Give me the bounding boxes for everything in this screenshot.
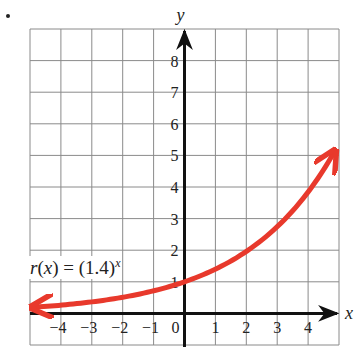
x-tick-label: 0: [172, 319, 180, 336]
x-tick-label: 2: [242, 319, 250, 336]
function-base: (1.4): [79, 257, 115, 278]
x-tick-label: 4: [304, 319, 312, 336]
x-tick-label: −4: [49, 319, 66, 336]
y-tick-label: 3: [171, 211, 179, 228]
x-tick-label: 3: [273, 319, 281, 336]
y-axis-label: y: [175, 5, 185, 25]
x-tick-label: 1: [211, 319, 219, 336]
y-tick-label: 2: [171, 242, 179, 259]
y-tick-label: 5: [171, 147, 179, 164]
x-tick-label: −2: [111, 319, 128, 336]
x-tick-label: −1: [142, 319, 159, 336]
y-tick-label: 4: [171, 179, 179, 196]
exponential-graph: −4−3−2−10123412345678xy: [0, 0, 359, 362]
x-axis-label: x: [344, 303, 353, 323]
x-tick-label: −3: [80, 319, 97, 336]
function-label: r(x) = (1.4)x: [28, 256, 122, 279]
y-tick-label: 7: [171, 84, 179, 101]
equals-sign: =: [59, 257, 79, 278]
function-variable: x: [44, 257, 52, 278]
y-tick-label: 8: [171, 53, 179, 70]
y-tick-label: 6: [171, 116, 179, 133]
function-exponent: x: [115, 256, 120, 270]
